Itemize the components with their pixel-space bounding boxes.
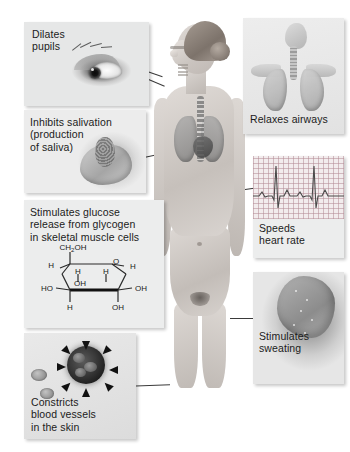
callout-panel-sweating [253, 272, 344, 384]
glucose-label-ch2oh: CH2OH [60, 244, 87, 253]
callout-label-salivation: Inhibits salivation (production of saliv… [30, 116, 112, 153]
constriction-arrow-icon [82, 341, 90, 350]
navel [197, 242, 202, 246]
glucose-label-h-bottom: H [67, 303, 73, 312]
figure-canvas: Dilates pupils Inhibits salivation (prod… [0, 0, 350, 452]
nose [170, 50, 178, 57]
callout-label-sweating: Stimulates sweating [259, 330, 309, 355]
constriction-arrow-icon [61, 379, 73, 391]
glucose-label-h-upper-left: H [48, 261, 54, 270]
sweat-droplet [306, 299, 308, 301]
glucose-structure-diagram: CH2OH O H H H H OH HO OH H OH [40, 244, 148, 322]
constriction-arrow-icon [57, 363, 66, 371]
red-blood-cell [31, 369, 47, 381]
left-lung [174, 116, 197, 162]
glucose-label-ho-left: HO [41, 284, 53, 293]
glucose-label-h-inner-right: H [103, 267, 109, 276]
ecg-trace [253, 156, 344, 219]
dilated-pupil [89, 67, 101, 79]
callout-label-glucose: Stimulates glucose release from glycogen… [30, 206, 139, 243]
glucose-label-ring-oxygen: O [113, 257, 119, 266]
throat-trachea [178, 64, 188, 78]
callout-label-vasoconstriction: Constricts blood vessels in the skin [31, 396, 96, 433]
red-blood-cell [73, 353, 85, 363]
glucose-label-oh-inner-left: OH [74, 279, 86, 288]
sweat-droplet [295, 290, 297, 292]
callout-label-airways: Relaxes airways [250, 113, 328, 125]
red-blood-cell [75, 368, 86, 377]
glucose-label-oh-right: OH [135, 284, 147, 293]
callout-label-eye: Dilates pupils [32, 28, 65, 53]
eyelash-icon [101, 46, 112, 48]
sweating-skin-illustration [253, 272, 344, 384]
callout-label-heart-rate: Speeds heart rate [259, 222, 305, 247]
sweat-droplet [293, 324, 295, 326]
hair-bun [210, 42, 230, 61]
ecg-graph-paper [253, 156, 344, 219]
glucose-label-h-inner-left: H [75, 267, 81, 276]
constriction-arrow-icon [102, 379, 114, 391]
left-lung-illustration [263, 69, 287, 111]
head-and-neck [285, 23, 307, 49]
glucose-label-h-upper-right: H [130, 262, 136, 271]
glucose-label-oh-bottom: OH [112, 303, 124, 312]
trachea [290, 46, 297, 80]
constriction-arrow-icon [109, 366, 118, 374]
